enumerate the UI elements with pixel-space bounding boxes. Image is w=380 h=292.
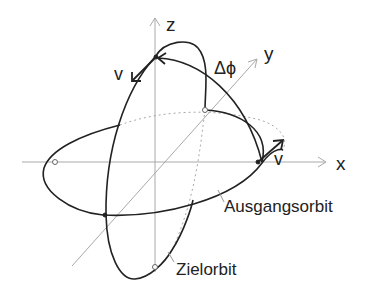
initial-orbit-label: Ausgangsorbit xyxy=(224,197,333,216)
marker-front-node xyxy=(103,213,107,217)
target-orbit-path xyxy=(155,42,206,110)
target-orbit-label: Zielorbit xyxy=(176,260,237,279)
marker-left xyxy=(53,160,58,165)
x-axis-label: x xyxy=(336,153,346,174)
z-axis-label: z xyxy=(166,14,176,35)
target-orbit-leader xyxy=(168,252,174,262)
marker-back xyxy=(203,108,208,113)
target-orbit-hidden-arc xyxy=(172,110,205,250)
delta-phi-label: Δϕ xyxy=(214,58,236,78)
marker-bottom xyxy=(153,265,158,270)
initial-orbit-upper-arc xyxy=(205,110,263,162)
target-orbit-front-arc xyxy=(106,57,193,279)
velocity-label-top: v xyxy=(114,64,123,84)
velocity-label-right: v xyxy=(274,149,283,169)
y-axis-label: y xyxy=(264,43,274,64)
orbit-plane-change-diagram: z y x Δϕ v v Ausgangsorbit Zielorbit xyxy=(0,0,380,292)
velocity-vector-top xyxy=(133,58,155,80)
hidden-orbit-segments xyxy=(120,110,285,250)
